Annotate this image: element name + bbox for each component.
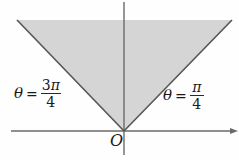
theta-symbol-right: θ — [163, 88, 172, 103]
origin-label: O — [110, 133, 123, 149]
fraction-denominator-left: 4 — [45, 94, 56, 109]
fraction-denominator-right: 4 — [191, 96, 202, 111]
polar-region-figure: θ = 3π 4 θ = π 4 O — [0, 0, 239, 160]
numerator-pi-right: π — [192, 79, 201, 95]
theta-symbol-left: θ — [14, 86, 23, 101]
right-ray-angle-label: θ = π 4 — [163, 80, 204, 112]
numerator-coefficient-left: 3 — [42, 77, 51, 93]
equals-sign-right: = — [175, 89, 187, 103]
fraction-three-pi-over-four: 3π 4 — [41, 78, 61, 110]
x-axis-arrow-icon — [230, 128, 238, 134]
fraction-numerator-right: π — [191, 80, 202, 95]
numerator-pi-left: π — [51, 77, 60, 93]
left-ray-angle-label: θ = 3π 4 — [14, 78, 61, 110]
equals-sign-left: = — [26, 87, 38, 101]
fraction-pi-over-four: π 4 — [190, 80, 204, 112]
fraction-numerator-left: 3π — [41, 78, 61, 93]
